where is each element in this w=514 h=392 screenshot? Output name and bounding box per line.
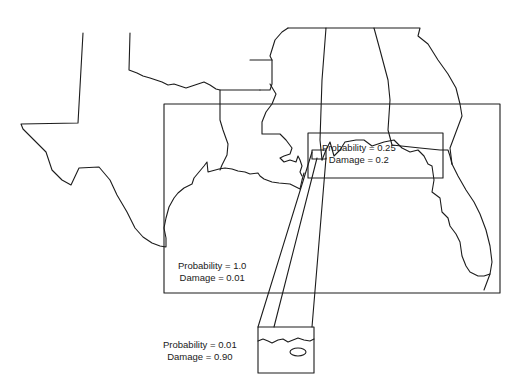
region-medium-damage: Damage = 0.2 (322, 154, 396, 166)
florida-east-coast (452, 164, 492, 290)
projection-line-right (312, 158, 326, 327)
mississippi-alabama-border (288, 28, 326, 160)
region-medium-probability: Probability = 0.25 (322, 142, 396, 154)
region-large-probability: Probability = 1.0 (178, 260, 246, 272)
region-large-damage: Damage = 0.01 (178, 272, 246, 284)
inset-coastline (258, 338, 314, 343)
region-large-label: Probability = 1.0 Damage = 0.01 (178, 260, 246, 284)
louisiana-outline (220, 90, 228, 170)
alabama-georgia-border (326, 28, 392, 145)
region-small-label: Probability = 0.01 Damage = 0.90 (163, 339, 237, 363)
projection-line-left (258, 152, 312, 327)
texas-outline (21, 33, 304, 247)
louisiana-coast (262, 84, 302, 176)
region-small-probability: Probability = 0.01 (163, 339, 237, 351)
inset-island (290, 348, 306, 356)
texas-north-border (129, 33, 260, 90)
gulf-coast-map (0, 0, 514, 392)
region-small-damage: Damage = 0.90 (163, 351, 237, 363)
region-medium-label: Probability = 0.25 Damage = 0.2 (322, 142, 396, 166)
arkansas-mississippi-border (260, 28, 288, 90)
